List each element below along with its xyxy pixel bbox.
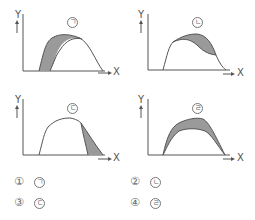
graph-panel-c: Y X ㄷ xyxy=(0,85,128,170)
x-axis-label: X xyxy=(113,152,120,163)
graph-panel-a: Y X ㄱ xyxy=(0,0,128,85)
y-axis-label: Y xyxy=(138,9,144,20)
x-axis-label: X xyxy=(237,67,244,78)
graph-d xyxy=(127,85,255,170)
panel-marker: ㄴ xyxy=(192,17,203,28)
choice-label: ㄷ xyxy=(34,198,45,209)
graph-panel-b: Y X ㄴ xyxy=(127,0,255,85)
choice-number: ① xyxy=(14,175,24,188)
graph-b xyxy=(127,0,255,85)
choice-number: ② xyxy=(130,175,140,188)
graph-panel-d: Y X ㄹ xyxy=(127,85,255,170)
y-axis-label: Y xyxy=(15,94,21,105)
y-axis-label: Y xyxy=(15,9,21,20)
panel-marker: ㄷ xyxy=(67,103,78,114)
panel-marker: ㄹ xyxy=(192,103,203,114)
y-axis-label: Y xyxy=(138,94,144,105)
panel-marker: ㄱ xyxy=(67,17,78,28)
x-axis-label: X xyxy=(237,152,244,163)
x-axis-label: X xyxy=(113,66,120,77)
choice-label: ㄴ xyxy=(150,177,161,188)
choice-label: ㄹ xyxy=(150,198,161,209)
choice-number: ③ xyxy=(14,196,24,209)
choice-label: ㄱ xyxy=(34,177,45,188)
choice-number: ④ xyxy=(130,196,140,209)
